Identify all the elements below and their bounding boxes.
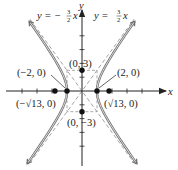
point-label-2-0: (2, 0)	[117, 67, 140, 79]
point-label-sqrt13-0: (√13, 0)	[104, 98, 138, 110]
point-marker	[52, 88, 57, 93]
svg-text:3: 3	[67, 8, 70, 15]
asymptote-label-positive: y = 3 2 x	[93, 8, 128, 23]
svg-text:3: 3	[117, 8, 120, 15]
y-axis-label: y	[78, 0, 84, 11]
svg-text:x: x	[122, 10, 128, 21]
hyperbola-chart: x y y = − 3 2 x y = 3 2 x (0, 3) (0, −3)…	[0, 0, 178, 170]
point-marker	[94, 88, 99, 93]
point-label-0-neg3: (0, −3)	[67, 117, 96, 129]
svg-text:2: 2	[117, 16, 120, 23]
x-axis-label: x	[167, 86, 173, 97]
leader-line-2	[99, 75, 116, 88]
point-label-neg2-0: (−2, 0)	[17, 67, 46, 79]
point-marker	[106, 88, 111, 93]
point-marker	[79, 109, 84, 114]
svg-text:y =: y =	[93, 10, 108, 21]
point-label-0-3: (0, 3)	[69, 58, 92, 70]
hyperbola-right-branch	[97, 21, 137, 164]
point-marker	[64, 88, 69, 93]
svg-text:2: 2	[67, 16, 70, 23]
svg-text:y = −: y = −	[36, 10, 61, 21]
svg-text:x: x	[72, 10, 78, 21]
asymptote-label-negative: y = − 3 2 x	[36, 8, 78, 23]
point-label-neg-sqrt13-0: (−√13, 0)	[16, 98, 56, 110]
